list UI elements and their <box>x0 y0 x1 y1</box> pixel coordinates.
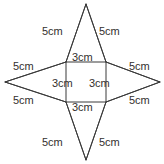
label-square-bottom: 3cm <box>72 102 92 113</box>
label-square-top: 3cm <box>72 52 92 63</box>
star-figure: 5cm 5cm 5cm 5cm 5cm 5cm 5cm 5cm 3cm 3cm … <box>0 0 164 164</box>
label-right-upper-side: 5cm <box>129 61 149 72</box>
label-square-middle-right: 3cm <box>89 78 109 89</box>
label-top-right-side: 5cm <box>99 26 119 37</box>
label-left-upper-side: 5cm <box>13 61 33 72</box>
label-bottom-left-side: 5cm <box>42 137 62 148</box>
label-square-middle-left: 3cm <box>52 78 72 89</box>
label-left-lower-side: 5cm <box>13 95 33 106</box>
label-top-left-side: 5cm <box>42 26 62 37</box>
star-outline <box>5 4 160 160</box>
star-diagram-svg <box>0 0 164 164</box>
label-right-lower-side: 5cm <box>129 95 149 106</box>
label-bottom-right-side: 5cm <box>99 137 119 148</box>
